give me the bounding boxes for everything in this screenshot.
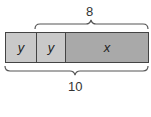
tape-bar: y y x	[5, 32, 149, 63]
segment-label: y	[48, 40, 55, 55]
segment-label: x	[104, 40, 111, 55]
segment-y-1: y	[6, 33, 36, 62]
segment-y-2: y	[36, 33, 65, 62]
top-brace	[35, 20, 148, 29]
segment-label: y	[18, 40, 25, 55]
bottom-brace	[5, 66, 148, 75]
bottom-brace-label: 10	[68, 80, 82, 93]
segment-x: x	[65, 33, 148, 62]
